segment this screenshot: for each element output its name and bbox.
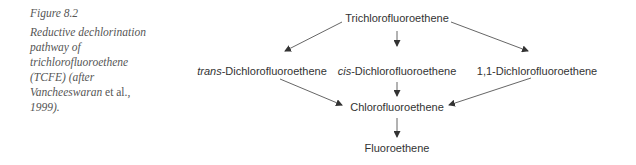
arrow-trans-to-cfe [280,79,342,105]
arrow-tcfe-to-trans [285,22,342,51]
arrow-tcfe-to-11 [451,22,528,51]
node-trichlorofluoroethene: Trichlorofluoroethene [345,12,449,24]
cis-rest: -Dichlorofluoroethene [351,65,456,77]
node-cis-dichlorofluoroethene: cis-Dichlorofluoroethene [338,65,457,77]
node-trans-dichlorofluoroethene: trans-Dichlorofluoroethene [197,65,327,77]
trans-prefix: trans [197,65,221,77]
cis-prefix: cis [338,65,351,77]
pathway-arrows [0,0,636,165]
node-chlorofluoroethene: Chlorofluoroethene [350,101,444,113]
node-11-dichlorofluoroethene: 1,1-Dichlorofluoroethene [477,65,597,77]
node-fluoroethene: Fluoroethene [365,142,430,154]
trans-rest: -Dichlorofluoroethene [222,65,327,77]
arrow-11-to-cfe [449,78,531,105]
